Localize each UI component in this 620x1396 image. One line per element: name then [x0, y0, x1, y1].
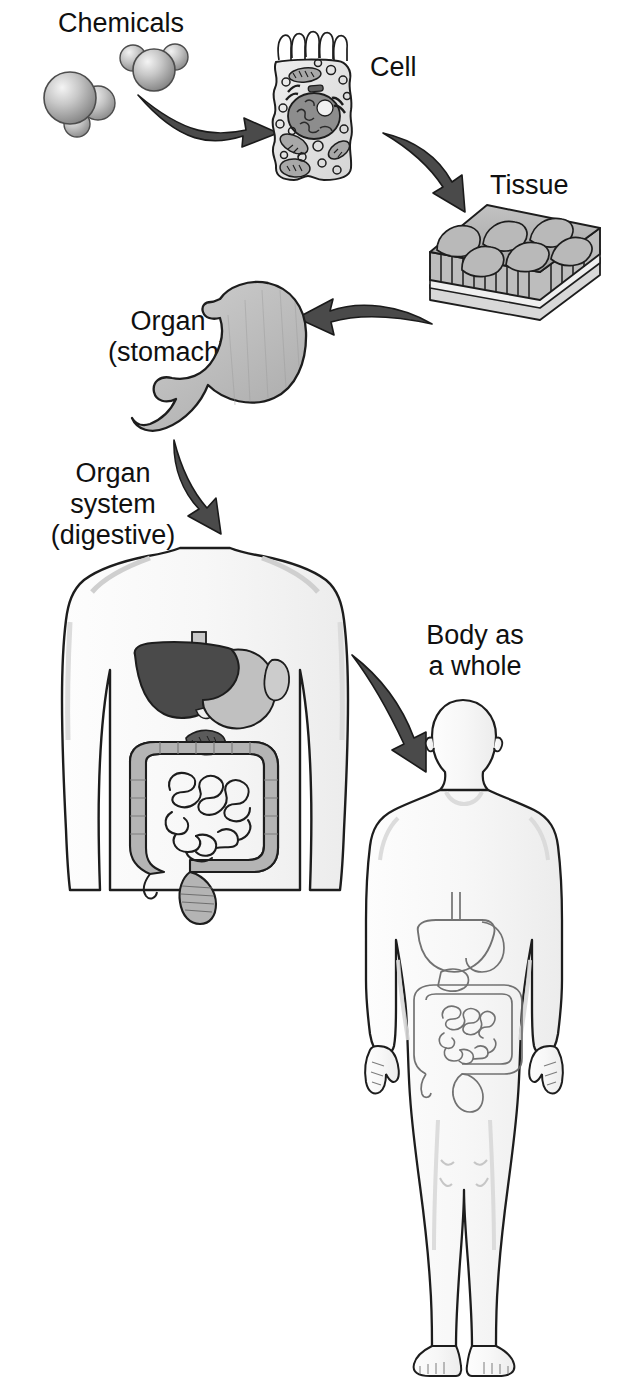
stomach-icon [132, 282, 306, 431]
molecule-icon-2 [120, 44, 188, 91]
molecule-icon-1 [44, 72, 115, 137]
diagram-artwork [0, 0, 620, 1396]
organization-levels-diagram: Chemicals Cell Tissue Organ (stomach) Or… [0, 0, 620, 1396]
arrow-organsystem-to-body [352, 655, 426, 772]
arrow-stomach-to-organsystem [174, 440, 221, 534]
arrow-cell-to-tissue [383, 133, 465, 212]
cell-icon [272, 32, 352, 180]
human-body-icon [365, 700, 563, 1376]
arrow-tissue-to-stomach [297, 299, 432, 335]
torso-digestive-system-icon [62, 548, 348, 924]
tissue-icon [430, 205, 600, 320]
arrow-chemicals-to-cell [138, 95, 278, 147]
